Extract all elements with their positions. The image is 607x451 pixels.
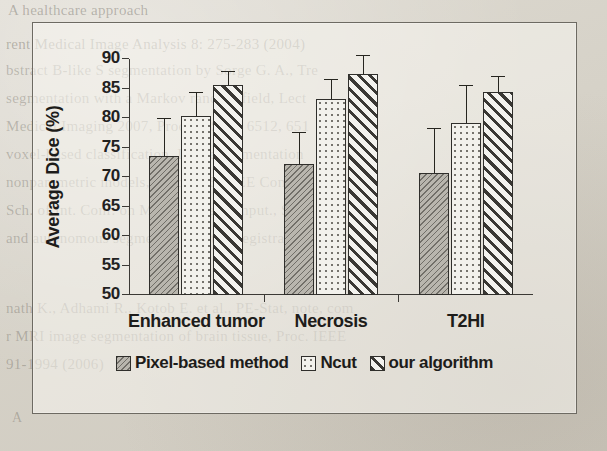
error-bar-cap [459,85,473,86]
chart-legend: Pixel-based methodNcutour algorithm [33,353,576,373]
y-axis-tick-label: 60 [102,225,120,245]
error-bar-cap [427,128,441,129]
y-axis-tick-label: 80 [102,107,120,127]
y-axis-tick [122,88,129,89]
bar-group [129,59,533,295]
y-axis-tick-label: 90 [102,48,120,68]
y-axis-tick [122,176,129,177]
legend-swatch-icon [370,356,385,371]
legend-item[interactable]: Ncut [301,353,356,373]
error-bar-cap [356,55,370,56]
y-axis-tick [122,58,129,59]
legend-label: Ncut [320,353,356,373]
y-axis-tick [122,147,129,148]
y-axis-tick-label: 55 [102,255,120,275]
error-bar [498,77,499,92]
y-axis-tick-label: 65 [102,196,120,216]
y-axis-tick-label: 85 [102,78,120,98]
bar[interactable] [483,92,513,295]
x-axis-category-label: T2HI [447,311,484,332]
legend-item[interactable]: our algorithm [370,353,493,373]
y-axis-title: Average Dice (%) [43,105,64,248]
x-axis-category-label: Necrosis [295,311,368,332]
y-axis-tick [122,294,129,295]
legend-label: Pixel-based method [135,353,288,373]
plot-area: Average Dice (%) 505560657075808590 Enha… [129,59,533,295]
bar[interactable] [451,123,481,295]
legend-label: our algorithm [389,353,493,373]
y-axis-tick [122,206,129,207]
y-axis-tick-label: 50 [102,284,120,304]
y-axis-tick-label: 70 [102,166,120,186]
error-bar-cap [491,76,505,77]
error-bar [466,86,467,124]
legend-swatch-icon [116,356,131,371]
x-axis-tick [398,295,399,302]
error-bar [434,129,435,173]
y-axis-tick [122,117,129,118]
legend-swatch-icon [301,356,316,371]
x-axis-category-label: Enhanced tumor [128,311,264,332]
x-axis-tick [264,295,265,302]
y-axis-tick [122,265,129,266]
legend-item[interactable]: Pixel-based method [116,353,288,373]
bar[interactable] [419,173,449,295]
figure-frame: Average Dice (%) 505560657075808590 Enha… [32,22,577,414]
y-axis-tick [122,235,129,236]
y-axis-tick-label: 75 [102,137,120,157]
